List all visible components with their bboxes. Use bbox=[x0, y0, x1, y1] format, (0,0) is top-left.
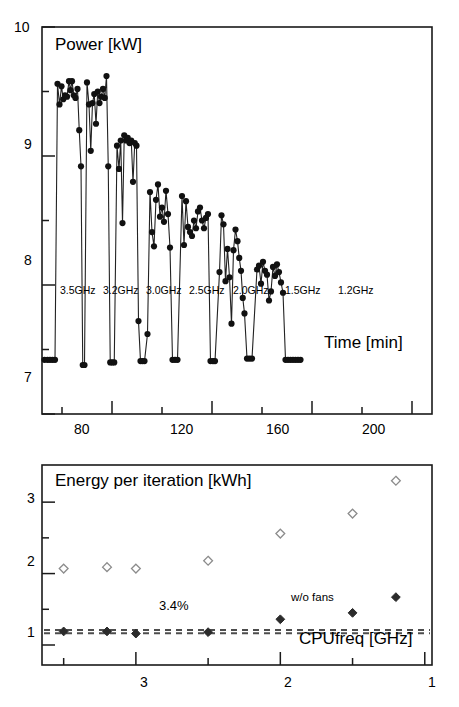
data-point bbox=[264, 272, 270, 278]
bottom-ytick-label-2: 2 bbox=[27, 554, 35, 568]
data-point bbox=[81, 362, 87, 368]
delta-percent-annotation: 3.4% bbox=[159, 599, 189, 612]
data-point bbox=[276, 269, 282, 275]
data-point bbox=[218, 212, 224, 218]
data-point bbox=[149, 229, 155, 235]
data-point bbox=[179, 193, 185, 199]
data-point bbox=[56, 101, 62, 107]
data-point bbox=[230, 247, 236, 253]
data-point bbox=[238, 268, 244, 274]
data-point bbox=[236, 255, 242, 261]
data-point bbox=[197, 205, 203, 211]
data-point bbox=[201, 225, 207, 231]
data-point bbox=[189, 233, 195, 239]
data-point bbox=[224, 246, 230, 252]
chart-canvas bbox=[0, 0, 459, 707]
data-point bbox=[161, 219, 167, 225]
data-point bbox=[297, 357, 303, 363]
data-point bbox=[93, 121, 99, 127]
data-point bbox=[183, 198, 189, 204]
bottom-ytick-label-3: 3 bbox=[27, 491, 35, 505]
data-point bbox=[274, 261, 280, 267]
data-point bbox=[96, 100, 102, 106]
data-point bbox=[58, 83, 64, 89]
top-xtick-label-80: 80 bbox=[74, 422, 90, 436]
phase-label-1-5ghz: 1.5GHz bbox=[285, 285, 321, 296]
data-point bbox=[212, 358, 218, 364]
data-point bbox=[64, 94, 70, 100]
data-point bbox=[119, 220, 125, 226]
bottom-xtick-label-3: 3 bbox=[140, 675, 148, 689]
data-point bbox=[163, 188, 169, 194]
data-point bbox=[155, 181, 161, 187]
data-point bbox=[181, 242, 187, 248]
phase-label-2-0ghz: 2.0GHz bbox=[233, 285, 269, 296]
data-point bbox=[268, 288, 274, 294]
data-point bbox=[278, 279, 284, 285]
marker-filled-diamond bbox=[276, 615, 285, 624]
data-point bbox=[241, 310, 247, 316]
data-point bbox=[249, 355, 255, 361]
axis-frame bbox=[42, 27, 432, 414]
data-point bbox=[260, 259, 266, 265]
phase-label-3-0ghz: 3.0GHz bbox=[146, 285, 182, 296]
data-point bbox=[228, 321, 234, 327]
bottom-xtick-label-1: 1 bbox=[428, 675, 436, 689]
data-point bbox=[78, 163, 84, 169]
data-point bbox=[72, 95, 78, 101]
top-xtick-label-120: 120 bbox=[170, 422, 193, 436]
data-point bbox=[95, 88, 101, 94]
data-point bbox=[76, 127, 82, 133]
top-ytick-label-10: 10 bbox=[14, 20, 30, 34]
top-chart-title: Power [kW] bbox=[55, 36, 142, 53]
bottom-chart-title: Energy per iteration [kWh] bbox=[55, 472, 252, 489]
data-point bbox=[144, 331, 150, 337]
marker-filled-diamond bbox=[391, 593, 400, 602]
data-point bbox=[141, 358, 147, 364]
data-point bbox=[74, 86, 80, 92]
top-xtick-label-160: 160 bbox=[266, 422, 289, 436]
marker-open-diamond bbox=[348, 509, 357, 518]
marker-open-diamond bbox=[391, 476, 400, 485]
data-point bbox=[84, 79, 90, 85]
data-point bbox=[102, 95, 108, 101]
marker-open-diamond bbox=[276, 529, 285, 538]
data-point bbox=[216, 269, 222, 275]
data-point bbox=[205, 211, 211, 217]
top-chart-xaxis-title: Time [min] bbox=[324, 334, 403, 351]
data-point bbox=[266, 297, 272, 303]
data-point bbox=[133, 143, 139, 149]
data-point bbox=[193, 225, 199, 231]
data-point bbox=[226, 274, 232, 280]
phase-label-3-2ghz: 3.2GHz bbox=[103, 285, 139, 296]
data-point bbox=[52, 357, 58, 363]
data-point bbox=[135, 318, 141, 324]
bottom-ytick-label-1: 1 bbox=[27, 625, 35, 639]
marker-open-diamond bbox=[59, 564, 68, 573]
data-point bbox=[220, 221, 226, 227]
top-ytick-label-7: 7 bbox=[24, 370, 32, 384]
figure-container: Power [kW] Time [min] 10 9 8 7 80 120 16… bbox=[0, 0, 459, 707]
data-point bbox=[105, 163, 111, 169]
marker-filled-diamond bbox=[103, 627, 112, 636]
phase-label-3-5ghz: 3.5GHz bbox=[60, 285, 96, 296]
bottom-chart-xaxis-title: CPUfreq [GHz] bbox=[299, 630, 412, 647]
data-point bbox=[114, 143, 120, 149]
data-point bbox=[234, 238, 240, 244]
data-point bbox=[167, 244, 173, 250]
data-point bbox=[116, 166, 122, 172]
data-point bbox=[232, 226, 238, 232]
marker-open-diamond bbox=[103, 563, 112, 572]
bottom-xtick-label-2: 2 bbox=[284, 675, 292, 689]
data-point bbox=[103, 73, 109, 79]
top-ytick-label-9: 9 bbox=[24, 137, 32, 151]
top-xtick-label-200: 200 bbox=[362, 422, 385, 436]
data-point bbox=[111, 359, 117, 365]
data-point bbox=[157, 214, 163, 220]
data-point bbox=[130, 179, 136, 185]
phase-label-1-2ghz: 1.2GHz bbox=[338, 285, 374, 296]
data-point bbox=[89, 100, 95, 106]
data-point bbox=[147, 189, 153, 195]
data-point bbox=[174, 357, 180, 363]
data-point bbox=[159, 205, 165, 211]
